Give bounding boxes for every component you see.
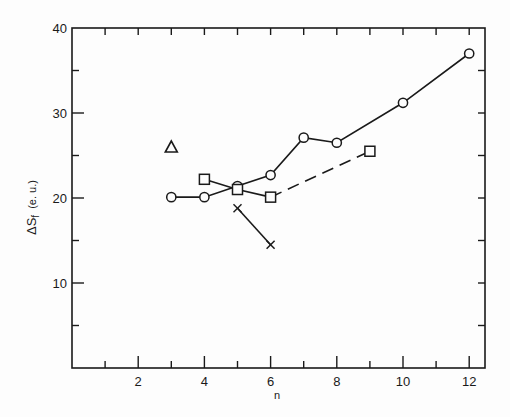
circle-marker [167,193,176,202]
square-marker [199,174,209,184]
y-axis-label-main: ΔS [24,217,39,235]
x-tick-label: 4 [201,374,208,389]
y-axis-label: ΔSf(e. u.) [24,180,41,235]
chart-canvas: 2468101210203040 n ΔSf(e. u.) [0,0,510,417]
series-line-crosses [238,208,271,245]
x-tick-label: 8 [333,374,340,389]
circle-marker [200,193,209,202]
data-series [165,49,474,249]
axis-tick-labels: 2468101210203040 [53,21,477,389]
circle-marker [465,49,474,58]
series-line-circles [171,54,469,198]
plot-frame [72,28,485,368]
circle-marker [266,170,275,179]
y-tick-label: 30 [53,106,67,121]
y-tick-label: 20 [53,191,67,206]
x-tick-label: 2 [135,374,142,389]
x-tick-label: 12 [462,374,476,389]
y-tick-label: 40 [53,21,67,36]
x-marker [234,204,242,212]
triangle-marker [165,141,177,152]
y-tick-label: 10 [53,276,67,291]
x-tick-label: 10 [396,374,410,389]
plot-border [72,28,485,368]
x-marker [267,241,275,249]
circle-marker [299,133,308,142]
y-axis-label-units: (e. u.) [26,180,38,209]
circle-marker [398,98,407,107]
circle-marker [332,138,341,147]
x-axis-label: n [274,389,280,401]
square-marker [233,185,243,195]
square-marker [266,192,276,202]
x-tick-label: 6 [267,374,274,389]
y-axis-label-subscript: f [30,215,41,218]
axis-ticks [72,28,485,368]
svg-text:ΔSf(e. u.): ΔSf(e. u.) [24,180,41,235]
square-marker [365,146,375,156]
